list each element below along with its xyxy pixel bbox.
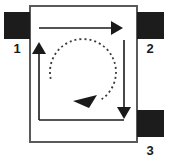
contact-pad-1[interactable] bbox=[4, 12, 30, 39]
device-body-outline bbox=[30, 6, 137, 142]
pad-label-1: 1 bbox=[13, 41, 20, 56]
contact-pad-2[interactable] bbox=[137, 12, 164, 39]
figure-container: 1 2 3 bbox=[0, 0, 169, 163]
schematic-diagram: 1 2 3 bbox=[0, 0, 169, 163]
pad-label-3: 3 bbox=[146, 143, 153, 158]
pad-label-2: 2 bbox=[146, 41, 153, 56]
contact-pad-3[interactable] bbox=[137, 110, 164, 137]
